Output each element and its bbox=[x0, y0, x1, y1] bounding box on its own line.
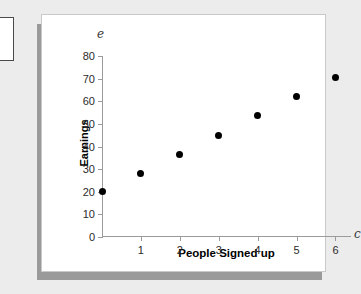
x-tick-label: 3 bbox=[216, 244, 222, 256]
data-point bbox=[215, 132, 222, 139]
x-tick-label: 6 bbox=[332, 244, 338, 256]
y-tick bbox=[98, 169, 103, 170]
x-tick bbox=[141, 236, 142, 241]
y-tick-label: 40 bbox=[83, 141, 95, 153]
data-point bbox=[137, 170, 144, 177]
y-tick-label: 10 bbox=[83, 208, 95, 220]
y-tick-label: 50 bbox=[83, 118, 95, 130]
y-tick-label: 80 bbox=[83, 50, 95, 62]
y-axis-variable-label: e bbox=[97, 27, 104, 41]
data-point bbox=[254, 112, 261, 119]
data-point bbox=[176, 151, 183, 158]
y-tick bbox=[98, 56, 103, 57]
data-point bbox=[332, 74, 339, 81]
y-tick-label: 0 bbox=[89, 231, 95, 243]
x-tick bbox=[219, 236, 220, 241]
y-tick bbox=[98, 101, 103, 102]
x-tick bbox=[180, 236, 181, 241]
data-point bbox=[99, 188, 106, 195]
y-tick-label: 70 bbox=[83, 73, 95, 85]
data-point bbox=[293, 93, 300, 100]
x-axis-variable-label: c bbox=[354, 227, 361, 241]
x-tick bbox=[297, 236, 298, 241]
x-tick-label: 4 bbox=[255, 244, 261, 256]
y-tick-label: 20 bbox=[83, 186, 95, 198]
x-tick-label: 5 bbox=[293, 244, 299, 256]
y-tick bbox=[98, 237, 103, 238]
x-tick-label: 1 bbox=[138, 244, 144, 256]
x-axis-line bbox=[102, 236, 351, 237]
plot-area: 01020304050607080 123456 bbox=[102, 56, 351, 237]
x-tick bbox=[335, 236, 336, 241]
y-tick-label: 30 bbox=[83, 163, 95, 175]
y-tick bbox=[98, 124, 103, 125]
x-tick bbox=[258, 236, 259, 241]
y-tick bbox=[98, 79, 103, 80]
y-tick-label: 60 bbox=[83, 95, 95, 107]
y-tick bbox=[98, 214, 103, 215]
x-tick-label: 2 bbox=[177, 244, 183, 256]
y-tick bbox=[98, 147, 103, 148]
chart-card: e c Earnings People Signed up 0102030405… bbox=[41, 14, 326, 272]
cropped-side-box bbox=[0, 17, 14, 61]
